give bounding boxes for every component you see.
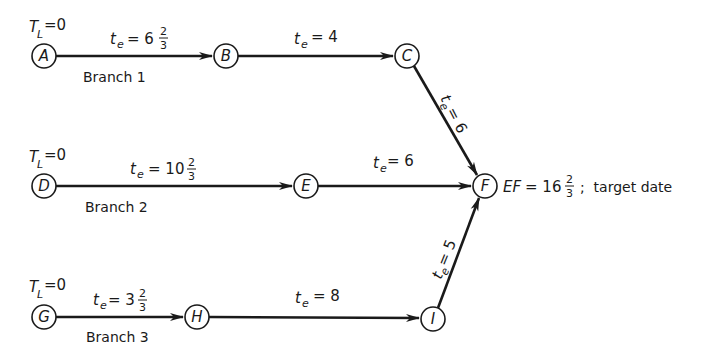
svg-text:2: 2 bbox=[566, 173, 573, 186]
svg-text:3: 3 bbox=[139, 301, 146, 314]
node-i: I bbox=[421, 307, 445, 331]
branch-1-label: Branch 1 bbox=[83, 69, 146, 85]
node-h: H bbox=[185, 305, 209, 329]
edge-h-i bbox=[209, 317, 419, 318]
svg-text:L: L bbox=[37, 28, 43, 41]
svg-text:B: B bbox=[221, 47, 231, 65]
svg-text:L: L bbox=[37, 288, 43, 301]
node-g: G bbox=[32, 305, 56, 329]
svg-text:C: C bbox=[402, 47, 413, 65]
node-e: E bbox=[294, 174, 318, 198]
svg-text:F: F bbox=[481, 177, 490, 195]
svg-text:= 6: = 6 bbox=[443, 104, 471, 136]
finish-label: EF = 16 2 3 ; target date bbox=[503, 173, 672, 200]
svg-text:I: I bbox=[431, 310, 436, 328]
svg-text:2: 2 bbox=[188, 156, 195, 169]
svg-text:=0: =0 bbox=[44, 16, 66, 34]
edge-label-b-c: t e = 4 bbox=[294, 28, 338, 51]
svg-text:=0: =0 bbox=[44, 276, 66, 294]
svg-text:t: t bbox=[93, 291, 100, 309]
svg-text:e: e bbox=[137, 168, 144, 181]
svg-text:D: D bbox=[38, 177, 50, 195]
edge-label-i-f: t e = 5 bbox=[428, 237, 463, 283]
svg-text:3: 3 bbox=[160, 39, 167, 52]
edge-label-g-h: t e = 3 2 3 bbox=[93, 287, 147, 314]
tl-label-d: T L =0 bbox=[29, 146, 66, 171]
svg-text:G: G bbox=[38, 308, 50, 326]
svg-text:2: 2 bbox=[160, 25, 167, 38]
svg-text:t: t bbox=[373, 154, 380, 172]
svg-text:t: t bbox=[294, 30, 301, 48]
svg-text:t: t bbox=[130, 160, 137, 178]
svg-text:EF: EF bbox=[503, 178, 521, 196]
svg-text:E: E bbox=[301, 177, 311, 195]
svg-text:=0: =0 bbox=[44, 146, 66, 164]
node-f: F bbox=[473, 174, 497, 198]
svg-text:= 4: = 4 bbox=[311, 28, 338, 46]
svg-text:e: e bbox=[380, 162, 387, 175]
svg-text:= 8: = 8 bbox=[313, 287, 340, 305]
edge-label-h-i: t e = 8 bbox=[295, 287, 340, 310]
svg-text:= 3: = 3 bbox=[108, 291, 135, 309]
edge-label-d-e: t e = 10 2 3 bbox=[130, 156, 196, 183]
svg-text:; target date: ; target date bbox=[580, 179, 672, 195]
svg-text:A: A bbox=[38, 47, 49, 65]
node-b: B bbox=[214, 44, 238, 68]
svg-text:L: L bbox=[37, 158, 43, 171]
edge-label-e-f: t e = 6 bbox=[373, 152, 414, 175]
tl-label-g: T L =0 bbox=[29, 276, 66, 301]
svg-text:= 16: = 16 bbox=[525, 178, 561, 196]
edge-label-c-f: t e = 6 bbox=[434, 92, 471, 138]
svg-text:t: t bbox=[295, 289, 302, 307]
svg-text:H: H bbox=[191, 308, 202, 326]
svg-text:t: t bbox=[110, 30, 117, 48]
branch-2-label: Branch 2 bbox=[85, 199, 148, 215]
edge-label-a-b: t e = 6 2 3 bbox=[110, 25, 168, 52]
svg-text:e: e bbox=[302, 297, 309, 310]
svg-text:3: 3 bbox=[566, 187, 573, 200]
node-c: C bbox=[395, 44, 419, 68]
tl-label-a: T L =0 bbox=[29, 16, 66, 41]
svg-text:= 6: = 6 bbox=[127, 30, 154, 48]
svg-text:= 10: = 10 bbox=[148, 160, 184, 178]
svg-text:e: e bbox=[117, 38, 124, 51]
svg-text:2: 2 bbox=[139, 287, 146, 300]
node-d: D bbox=[32, 174, 56, 198]
svg-text:3: 3 bbox=[188, 170, 195, 183]
branch-3-label: Branch 3 bbox=[86, 329, 149, 345]
svg-text:e: e bbox=[100, 299, 107, 312]
node-a: A bbox=[32, 44, 56, 68]
svg-text:e: e bbox=[301, 38, 308, 51]
pert-network-diagram: A B C D E F G H I T L =0 T L =0 bbox=[0, 0, 719, 363]
svg-text:= 5: = 5 bbox=[433, 237, 460, 269]
svg-text:= 6: = 6 bbox=[387, 152, 414, 170]
